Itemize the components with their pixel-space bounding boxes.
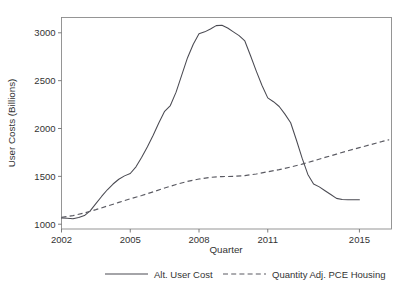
y-tick-label: 1500 bbox=[34, 171, 55, 182]
chart-figure: 10001500200025003000 2002200520082011201… bbox=[0, 0, 411, 291]
plot-frame bbox=[62, 18, 392, 230]
x-axis-title: Quarter bbox=[209, 244, 243, 255]
series-alt-user-cost bbox=[62, 25, 360, 219]
y-tick-label: 2500 bbox=[34, 75, 55, 86]
legend-label-quantity-adj-pce-housing: Quantity Adj. PCE Housing bbox=[272, 269, 386, 280]
x-tick-label: 2002 bbox=[51, 234, 72, 245]
x-tick-label: 2011 bbox=[258, 234, 278, 245]
series-quantity-adj-pce-housing bbox=[62, 140, 390, 218]
y-tick-label: 1000 bbox=[34, 219, 55, 230]
y-axis-title: User Costs (Billions) bbox=[6, 79, 17, 168]
x-axis-ticks: 20022005200820112015 bbox=[51, 229, 370, 245]
y-tick-label: 2000 bbox=[34, 123, 55, 134]
y-tick-label: 3000 bbox=[34, 27, 55, 38]
x-tick-label: 2005 bbox=[120, 234, 141, 245]
legend-label-alt-user-cost: Alt. User Cost bbox=[154, 269, 213, 280]
y-axis-ticks: 10001500200025003000 bbox=[34, 27, 61, 229]
chart-legend: Alt. User Cost Quantity Adj. PCE Housing bbox=[105, 269, 386, 280]
x-tick-label: 2015 bbox=[349, 234, 370, 245]
user-costs-line-chart: 10001500200025003000 2002200520082011201… bbox=[0, 0, 411, 291]
x-tick-label: 2008 bbox=[188, 234, 209, 245]
